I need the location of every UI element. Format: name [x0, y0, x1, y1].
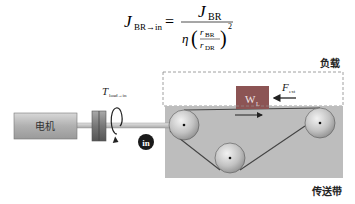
load-label: 负载	[320, 57, 340, 69]
rotation-arrowhead-icon	[113, 136, 120, 144]
motor-label: 电机	[35, 120, 55, 132]
weight-symbol: W	[245, 93, 256, 105]
pulley-bottom	[215, 143, 245, 173]
conveyor-label: 传送带	[311, 185, 342, 197]
drive-shaft	[76, 123, 174, 128]
force-subscript: ext	[289, 89, 296, 94]
torque-rotation-arrow	[111, 108, 122, 134]
pulley-drive	[169, 110, 199, 140]
torque-symbol: T	[102, 85, 109, 97]
force-symbol: F	[281, 81, 289, 93]
torque-subscript: load→in	[109, 93, 127, 98]
pulley-right	[305, 108, 335, 138]
conveyor-diagram: W L F ext T load→in in 电机 负载 传送带	[0, 0, 355, 204]
input-marker-label: in	[142, 138, 150, 148]
